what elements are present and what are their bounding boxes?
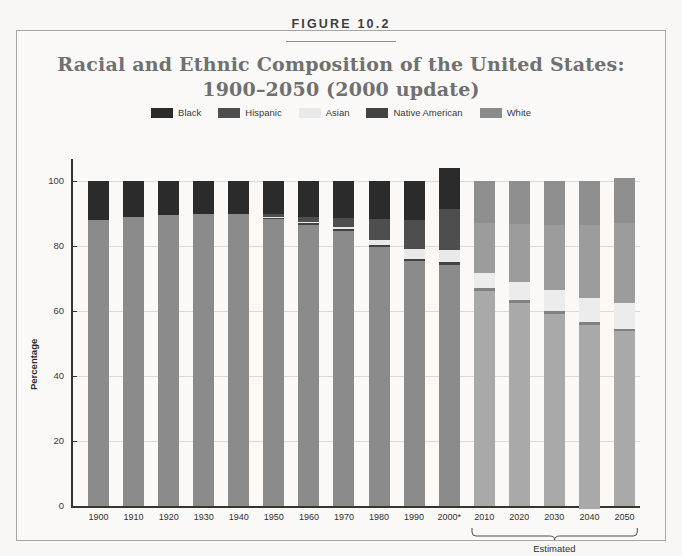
bar-segment-asian	[579, 298, 600, 322]
bar-1900	[88, 181, 109, 506]
y-axis-tick-mark	[72, 441, 77, 442]
bar-segment-white	[228, 214, 249, 507]
bar-segment-black	[474, 181, 495, 223]
y-axis-tick-mark	[72, 181, 77, 182]
y-axis-tick-label: 20	[38, 435, 64, 446]
y-axis-tick-label: 80	[38, 240, 64, 251]
bar-segment-white	[263, 219, 284, 506]
bar-segment-black	[298, 181, 319, 217]
bar-segment-hispanic	[579, 225, 600, 297]
y-axis-title: Percentage	[28, 339, 39, 390]
bar-segment-hispanic	[509, 224, 530, 282]
bar-segment-white	[333, 231, 354, 506]
x-axis-tick-label: 2050	[602, 512, 646, 522]
bar-segment-white	[193, 214, 214, 507]
bar-2050	[614, 178, 635, 506]
bar-segment-white	[544, 314, 565, 506]
bar-segment-white	[509, 303, 530, 506]
bar-segment-hispanic	[369, 219, 390, 240]
y-axis-tick-mark	[72, 376, 77, 377]
bar-segment-asian	[439, 250, 460, 262]
bar-segment-asian	[544, 290, 565, 311]
bar-segment-white	[474, 291, 495, 506]
y-axis-tick-mark	[72, 246, 77, 247]
bar-segment-black	[614, 178, 635, 223]
bar-segment-white	[614, 331, 635, 506]
y-axis-tick-label: 60	[38, 305, 64, 316]
bar-segment-hispanic	[544, 225, 565, 290]
bar-segment-white	[404, 261, 425, 506]
bar-segment-black	[228, 181, 249, 214]
bar-segment-black	[158, 181, 179, 215]
bar-1960	[298, 181, 319, 506]
bar-segment-white	[298, 225, 319, 506]
chart-plot-area: 020406080100Percentage190019101920193019…	[0, 0, 650, 511]
bar-segment-asian	[509, 282, 530, 301]
y-axis-line	[71, 159, 73, 507]
bar-segment-black	[439, 168, 460, 209]
bar-2030	[544, 181, 565, 506]
bar-segment-hispanic	[333, 218, 354, 226]
bar-2040	[579, 181, 600, 506]
y-axis-tick-mark	[72, 311, 77, 312]
estimated-label: Estimated	[471, 543, 638, 554]
y-axis-tick-label: 100	[38, 175, 64, 186]
bar-1920	[158, 181, 179, 506]
bar-segment-black	[579, 181, 600, 225]
bar-segment-black	[88, 181, 109, 220]
bar-segment-white	[579, 325, 600, 509]
bar-1940	[228, 181, 249, 506]
y-axis-tick-label: 40	[38, 370, 64, 381]
bar-segment-white	[88, 220, 109, 506]
bar-segment-hispanic	[404, 220, 425, 249]
bar-2020	[509, 181, 530, 506]
bar-segment-white	[369, 247, 390, 506]
bar-segment-asian	[474, 273, 495, 289]
bar-segment-black	[193, 181, 214, 214]
bar-segment-black	[333, 181, 354, 218]
bar-2010	[474, 181, 495, 506]
estimated-bracket	[471, 527, 638, 541]
x-axis-line	[71, 506, 640, 508]
bar-segment-hispanic	[614, 223, 635, 303]
bar-2000	[439, 168, 460, 506]
bar-segment-hispanic	[474, 223, 495, 272]
bar-1950	[263, 181, 284, 506]
bar-1930	[193, 181, 214, 506]
bar-segment-hispanic	[439, 209, 460, 250]
bar-segment-black	[509, 181, 530, 224]
bar-segment-black	[544, 181, 565, 225]
bar-segment-black	[123, 181, 144, 217]
bar-1970	[333, 181, 354, 506]
bar-1910	[123, 181, 144, 506]
bar-segment-white	[158, 215, 179, 506]
bar-segment-white	[123, 217, 144, 506]
bar-segment-asian	[614, 303, 635, 329]
y-axis-tick-label: 0	[38, 500, 64, 511]
bar-segment-black	[404, 181, 425, 220]
bar-1980	[369, 181, 390, 506]
bar-1990	[404, 181, 425, 506]
bar-segment-asian	[404, 249, 425, 258]
bar-segment-white	[439, 265, 460, 506]
bar-segment-black	[369, 181, 390, 219]
bar-segment-black	[263, 181, 284, 214]
